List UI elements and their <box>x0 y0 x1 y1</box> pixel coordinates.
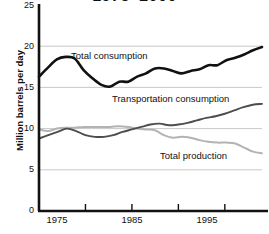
plot-area <box>0 0 269 234</box>
chart-container: 1975–2000 Million barrels per day 25 20 … <box>0 0 269 234</box>
series-lines <box>39 47 262 153</box>
axis-lines <box>38 4 268 211</box>
gridlines <box>39 46 262 170</box>
